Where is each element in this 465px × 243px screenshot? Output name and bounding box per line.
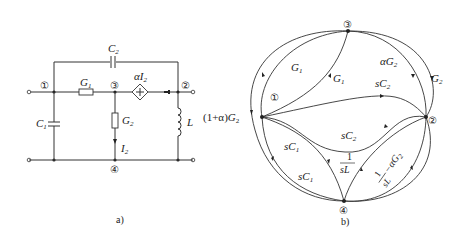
edge-1-over-sl-minus-alpha-g2 — [344, 117, 426, 201]
label-sc1-inner: sC1 — [284, 140, 299, 154]
sfg-label-1: ① — [270, 92, 279, 103]
label-g2: G2 — [122, 114, 134, 128]
label-i2: I2 — [120, 142, 129, 156]
node-label-4: ④ — [110, 164, 119, 175]
edge-sc1-outer — [262, 117, 344, 201]
sfg-node-1 — [260, 115, 264, 119]
label-sc2-upper: sC2 — [375, 77, 391, 91]
node-label-2: ② — [181, 80, 190, 91]
label-sc2-lower: sC2 — [341, 129, 357, 143]
terminal-2 — [191, 90, 195, 94]
label-g1-outer: G1 — [291, 61, 302, 75]
label-l: L — [186, 116, 193, 128]
svg-text:1: 1 — [372, 169, 383, 178]
svg-text:−αG2: −αG2 — [381, 149, 405, 175]
label-alpha-g2: αG2 — [380, 55, 398, 69]
label-c1: C1 — [36, 117, 47, 131]
label-1plusalpha-g2: (1+α)G2 — [203, 111, 240, 125]
node-label-3: ③ — [110, 80, 119, 91]
label-g1-inner: G1 — [333, 72, 344, 86]
svg-text:sL: sL — [340, 164, 350, 175]
edge-g2-outer — [348, 31, 433, 117]
label-sc1-outer: sC1 — [298, 170, 313, 184]
circuit-diagram: C2 G1 αI2 ① ③ ② ④ C1 — [27, 42, 195, 226]
label-c2: C2 — [108, 42, 119, 56]
sfg-label-4: ④ — [339, 205, 348, 216]
label-g1: G1 — [80, 76, 91, 90]
figure-canvas: C2 G1 αI2 ① ③ ② ④ C1 — [0, 0, 465, 243]
sfg-node-4 — [342, 199, 346, 203]
signal-flow-graph: ① ② ③ ④ (1+α)G2 G1 G1 αG2 G2 sC2 sC2 sC1… — [203, 19, 443, 228]
caption-b: b) — [341, 216, 349, 228]
inductor-l — [178, 108, 181, 136]
sfg-label-2: ② — [428, 115, 437, 126]
svg-text:1: 1 — [347, 151, 352, 162]
node-label-1: ① — [40, 80, 49, 91]
label-alpha-i2: αI2 — [134, 70, 147, 84]
label-1-over-sl: 1 sL — [340, 151, 355, 175]
sfg-label-3: ③ — [343, 19, 352, 30]
edge-1-over-sl — [344, 117, 426, 201]
label-1-over-sl-minus-alpha-g2: 1 sL −αG2 — [370, 147, 409, 189]
resistor-g2 — [112, 113, 118, 128]
edge-sc2-upper — [262, 96, 426, 117]
label-g2-outer: G2 — [431, 72, 443, 86]
terminal-1 — [27, 90, 31, 94]
caption-a: a) — [116, 214, 124, 226]
